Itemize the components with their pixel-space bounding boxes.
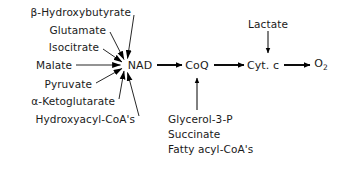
- substrate-label-alpha-ketoglutarate: α-Ketoglutarate: [31, 96, 115, 107]
- chain-node-nad: NAD: [128, 60, 153, 71]
- oxygen-symbol: O: [314, 57, 323, 70]
- donor-label-lactate: Lactate: [248, 19, 288, 30]
- substrate-label-pyruvate: Pyruvate: [44, 79, 92, 90]
- donor-label-fatty-acyl-coas: Fatty acyl-CoA's: [168, 144, 253, 155]
- donor-label-succinate: Succinate: [168, 129, 220, 140]
- electron-transport-chain-diagram: β-Hydroxybutyrate Glutamate Isocitrate M…: [0, 0, 339, 171]
- chain-node-cytochrome-c: Cyt. c: [247, 60, 279, 71]
- substrate-label-b-hydroxybutyrate: β-Hydroxybutyrate: [30, 7, 131, 18]
- substrate-label-hydroxyacyl-coas: Hydroxyacyl-CoA's: [35, 114, 135, 125]
- chain-node-oxygen: O2: [314, 58, 328, 72]
- donor-label-glycerol-3-p: Glycerol-3-P: [168, 114, 233, 125]
- oxygen-subscript: 2: [323, 63, 328, 72]
- chain-node-coq: CoQ: [185, 60, 208, 71]
- substrate-label-isocitrate: Isocitrate: [49, 42, 99, 53]
- substrate-label-glutamate: Glutamate: [50, 25, 106, 36]
- substrate-label-malate: Malate: [36, 60, 72, 71]
